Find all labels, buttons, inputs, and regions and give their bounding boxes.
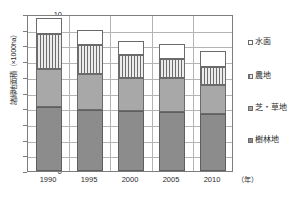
stacked-bar-chart: 諸緑地面積（×1000ha） 012345678910 199019952000…	[0, 0, 299, 204]
legend-item-farmland[interactable]: 農地	[248, 72, 271, 80]
stacked-bar-1990	[36, 18, 62, 171]
category-separator	[69, 16, 70, 171]
stacked-bar-1995	[77, 30, 103, 171]
bar-segment-woodland	[200, 114, 226, 171]
bar-segment-water	[159, 44, 185, 59]
legend-swatch-icon	[248, 40, 253, 45]
category-separator	[110, 16, 111, 171]
stacked-bar-2010	[200, 51, 226, 171]
category-separator	[193, 16, 194, 171]
plot-area	[27, 15, 233, 172]
bar-segment-lawn	[77, 74, 103, 110]
bar-segment-woodland	[118, 111, 144, 171]
legend-swatch-icon	[248, 74, 253, 79]
legend-label: 芝・草地	[255, 104, 287, 112]
legend-label: 農地	[255, 72, 271, 80]
bar-segment-lawn	[200, 85, 226, 115]
x-tick-label: 1990	[26, 176, 70, 184]
bar-segment-farmland	[118, 55, 144, 79]
legend-item-water[interactable]: 水面	[248, 38, 271, 46]
bar-segment-water	[36, 18, 62, 34]
x-tick-label: 2005	[149, 176, 193, 184]
legend-label: 水面	[255, 38, 271, 46]
bar-segment-water	[200, 51, 226, 67]
x-tick-label: 1995	[67, 176, 111, 184]
bar-segment-farmland	[77, 45, 103, 73]
bar-segment-woodland	[159, 112, 185, 171]
bar-segment-lawn	[159, 78, 185, 112]
y-axis-title: 諸緑地面積（×1000ha）	[8, 28, 20, 108]
bar-segment-woodland	[36, 107, 62, 171]
y-tick-mark	[23, 172, 27, 173]
bar-segment-water	[77, 30, 103, 46]
bar-segment-farmland	[159, 59, 185, 79]
legend-item-lawn[interactable]: 芝・草地	[248, 104, 287, 112]
bar-segment-farmland	[200, 67, 226, 85]
bar-segment-water	[118, 41, 144, 55]
x-axis-unit-label: （年）	[237, 176, 258, 184]
bar-segment-lawn	[118, 78, 144, 111]
bar-segment-farmland	[36, 34, 62, 69]
bar-segment-lawn	[36, 69, 62, 107]
legend-label: 樹林地	[255, 136, 279, 144]
category-separator	[152, 16, 153, 171]
stacked-bar-2005	[159, 44, 185, 171]
stacked-bar-2000	[118, 41, 144, 171]
legend-swatch-icon	[248, 138, 253, 143]
x-tick-label: 2000	[108, 176, 152, 184]
legend-item-woodland[interactable]: 樹林地	[248, 136, 279, 144]
legend-swatch-icon	[248, 106, 253, 111]
bar-segment-woodland	[77, 110, 103, 171]
x-tick-label: 2010	[190, 176, 234, 184]
